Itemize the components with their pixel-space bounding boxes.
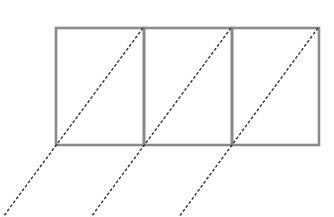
dashed-line-3 [179,28,318,217]
dashed-line-2 [91,28,231,217]
diagram-canvas [0,0,334,217]
dashed-line-1 [3,28,143,217]
dashed-diagonals [3,28,318,217]
